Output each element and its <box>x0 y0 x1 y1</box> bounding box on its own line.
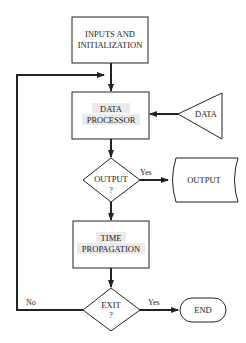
inputs-label-line1: INPUTS AND <box>85 29 135 39</box>
edge-exit-no-loop <box>17 75 104 310</box>
node-end: END <box>180 298 226 322</box>
exit-no-label: No <box>26 298 36 307</box>
exit-yes-label: Yes <box>148 298 160 307</box>
output-yes-label: Yes <box>140 168 152 177</box>
end-label: END <box>194 305 211 315</box>
processor-label-line1: DATA <box>100 104 123 114</box>
exit-decision-label-line1: EXIT <box>101 300 121 310</box>
time-label-line1: TIME <box>101 233 122 243</box>
inputs-label-line2: INITIALIZATION <box>78 40 143 50</box>
processor-label-line2: PROCESSOR <box>87 115 136 125</box>
node-output: OUTPUT <box>173 158 239 202</box>
time-label-line2: PROPAGATION <box>82 244 140 254</box>
node-inputs-initialization: INPUTS AND INITIALIZATION <box>72 17 148 63</box>
exit-decision-label-line2: ? <box>109 310 113 320</box>
node-data-input: DATA <box>178 93 222 139</box>
output-decision-label-line2: ? <box>109 185 113 195</box>
node-data-processor: DATA PROCESSOR <box>72 92 149 139</box>
node-exit-decision: EXIT ? <box>83 288 140 331</box>
data-label: DATA <box>195 109 218 119</box>
flowchart-canvas: INPUTS AND INITIALIZATION DATA PROCESSOR… <box>0 0 246 343</box>
output-label: OUTPUT <box>187 175 221 185</box>
node-output-decision: OUTPUT ? <box>83 158 140 202</box>
output-decision-label-line1: OUTPUT <box>94 174 128 184</box>
node-time-propagation: TIME PROPAGATION <box>73 221 149 268</box>
